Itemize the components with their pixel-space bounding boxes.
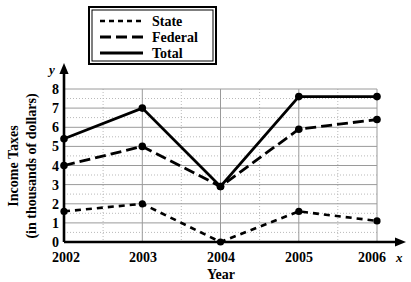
x-axis-title: Year <box>207 267 235 282</box>
data-point-total-2002 <box>60 135 68 143</box>
legend-label-state: State <box>152 14 182 29</box>
data-point-federal-2005 <box>295 125 303 133</box>
income-taxes-line-chart: State Federal Total <box>0 0 411 282</box>
x-tick-label-2005: 2005 <box>285 250 313 265</box>
y-tick-label-4: 4 <box>52 159 59 174</box>
y-tick-label-0: 0 <box>52 235 59 250</box>
data-point-total-2004 <box>217 183 225 191</box>
y-tick-labels: 0 1 2 3 4 5 6 7 8 <box>52 82 59 250</box>
data-point-federal-2003 <box>139 143 147 151</box>
x-axis-letter: x <box>395 250 403 265</box>
chart-canvas: State Federal Total <box>0 0 411 282</box>
y-axis-title-line2: (in thousands of dollars) <box>24 93 40 238</box>
y-tick-label-2: 2 <box>52 197 59 212</box>
y-axis-title: Income Taxes (in thousands of dollars) <box>6 93 40 238</box>
data-point-total-2005 <box>295 93 303 101</box>
data-point-state-2003 <box>139 200 146 207</box>
y-tick-label-7: 7 <box>52 101 59 116</box>
data-point-state-2006 <box>373 217 380 224</box>
y-tick-label-5: 5 <box>52 139 59 154</box>
x-tick-label-2006: 2006 <box>358 250 386 265</box>
y-tick-label-6: 6 <box>52 120 59 135</box>
data-point-state-2002 <box>60 208 67 215</box>
legend-label-total: Total <box>152 46 183 61</box>
x-tick-label-2003: 2003 <box>129 250 157 265</box>
x-axis-arrowhead <box>395 237 406 246</box>
x-tick-labels: 2002 2003 2004 2005 2006 <box>52 250 386 265</box>
data-point-total-2006 <box>373 93 381 101</box>
data-point-total-2003 <box>139 104 147 112</box>
y-tick-label-3: 3 <box>52 178 59 193</box>
legend-label-federal: Federal <box>152 30 198 45</box>
data-point-state-2005 <box>295 208 302 215</box>
y-tick-label-8: 8 <box>52 82 59 97</box>
y-axis-title-line1: Income Taxes <box>6 125 21 207</box>
x-tick-label-2002: 2002 <box>52 250 80 265</box>
data-point-federal-2006 <box>373 116 381 124</box>
x-tick-label-2004: 2004 <box>207 250 235 265</box>
chart-legend: State Federal Total <box>89 7 216 64</box>
y-tick-label-1: 1 <box>52 216 59 231</box>
data-point-state-2004 <box>217 238 224 245</box>
y-axis-letter: y <box>47 62 55 77</box>
y-axis-arrowhead <box>59 63 68 74</box>
data-point-federal-2002 <box>60 162 68 170</box>
